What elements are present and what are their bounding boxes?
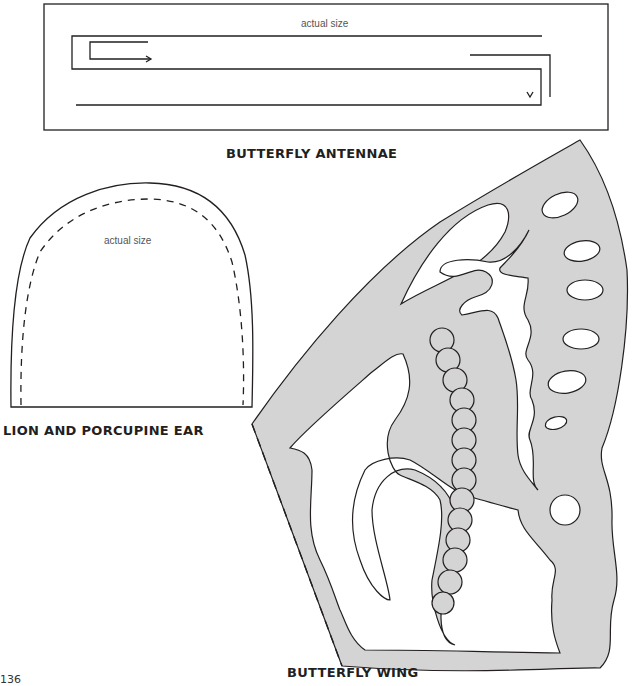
wing-caption: BUTTERFLY WING (287, 665, 418, 680)
chevron-down-icon (527, 92, 533, 97)
ear-caption: LION AND PORCUPINE EAR (3, 423, 204, 438)
ear-template (11, 183, 253, 407)
antennae-caption: BUTTERFLY ANTENNAE (226, 146, 397, 161)
ear-scale-note: actual size (104, 235, 151, 246)
antennae-scale-note: actual size (301, 18, 348, 29)
arrow-icon (90, 42, 151, 59)
page-number: 136 (0, 673, 21, 686)
wing-template (252, 140, 627, 671)
